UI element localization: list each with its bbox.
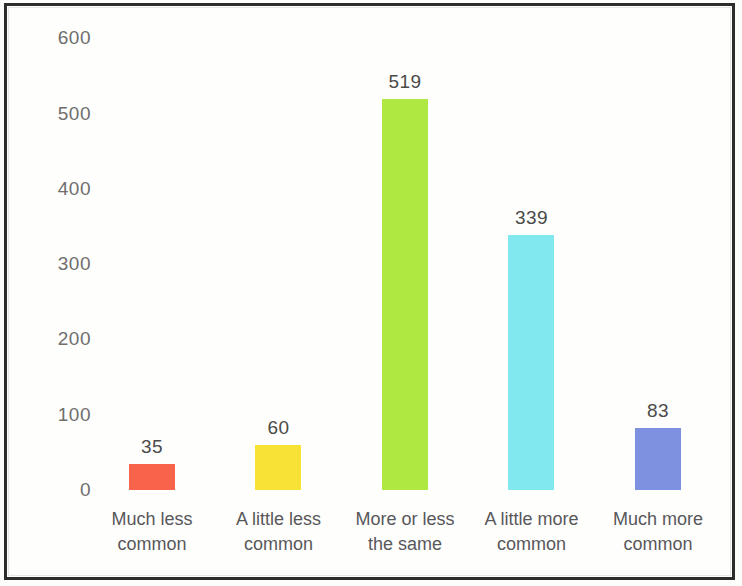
- x-axis-category-label: A little lesscommon: [212, 507, 345, 557]
- bar[interactable]: [255, 445, 301, 490]
- bar-group: 83Much morecommon: [596, 8, 721, 575]
- category-label-line2: the same: [339, 532, 472, 557]
- bar-value-label: 83: [596, 400, 721, 422]
- bar-group: 519More or lessthe same: [343, 8, 468, 575]
- category-label-line2: common: [465, 532, 598, 557]
- bar-value-label: 339: [469, 207, 594, 229]
- category-label-line2: common: [86, 532, 219, 557]
- bars-layer: 35Much lesscommon60A little lesscommon51…: [9, 8, 730, 575]
- x-axis-category-label: More or lessthe same: [339, 507, 472, 557]
- plot-area: 0100200300400500600 35Much lesscommon60A…: [9, 8, 730, 575]
- bar[interactable]: [382, 99, 428, 490]
- x-axis-category-label: A little morecommon: [465, 507, 598, 557]
- bar[interactable]: [129, 464, 175, 490]
- category-label-line1: A little less: [236, 509, 321, 529]
- bar-value-label: 519: [343, 71, 468, 93]
- bar-group: 60A little lesscommon: [216, 8, 341, 575]
- x-axis-category-label: Much morecommon: [592, 507, 725, 557]
- category-label-line1: A little more: [484, 509, 578, 529]
- category-label-line1: Much more: [613, 509, 703, 529]
- category-label-line2: common: [212, 532, 345, 557]
- category-label-line2: common: [592, 532, 725, 557]
- category-label-line1: More or less: [355, 509, 454, 529]
- bar-value-label: 35: [90, 436, 215, 458]
- x-axis-category-label: Much lesscommon: [86, 507, 219, 557]
- bar[interactable]: [508, 235, 554, 490]
- bar-group: 339A little morecommon: [469, 8, 594, 575]
- bar-value-label: 60: [216, 417, 341, 439]
- category-label-line1: Much less: [111, 509, 192, 529]
- bar-group: 35Much lesscommon: [90, 8, 215, 575]
- bar[interactable]: [635, 428, 681, 490]
- chart-figure: 0100200300400500600 35Much lesscommon60A…: [0, 0, 742, 586]
